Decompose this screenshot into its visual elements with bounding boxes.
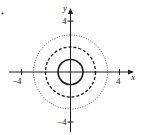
circle-diagram: y x −4 4 4 −4 <box>0 0 141 135</box>
x-tick-label-pos4: 4 <box>116 76 121 86</box>
x-axis-label: x <box>130 72 135 82</box>
x-tick-label-neg4: −4 <box>12 76 22 86</box>
y-tick-label-neg4: −4 <box>57 117 67 127</box>
y-axis-label: y <box>62 3 67 13</box>
y-axis-arrow-icon <box>68 8 73 14</box>
bullet-dot <box>2 13 4 15</box>
y-tick-label-pos4: 4 <box>62 16 67 26</box>
